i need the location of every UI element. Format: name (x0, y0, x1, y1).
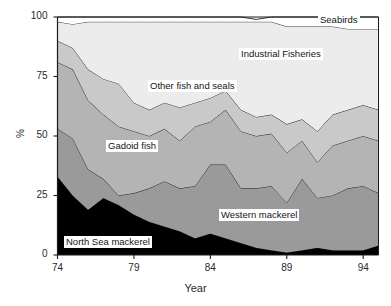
stacked-area-chart-figure: % Year 0255075100 7479848994 SeabirdsInd… (0, 0, 391, 306)
y-tick-label-50: 50 (18, 129, 48, 140)
x-tick-label-84: 84 (195, 262, 225, 273)
area-series-group (58, 17, 379, 255)
y-tick-label-100: 100 (18, 10, 48, 21)
x-tick-label-79: 79 (119, 262, 149, 273)
x-tick-label-94: 94 (348, 262, 378, 273)
chart-canvas (0, 0, 391, 306)
x-tick-label-89: 89 (272, 262, 302, 273)
y-tick-label-0: 0 (18, 248, 48, 259)
y-tick-label-25: 25 (18, 189, 48, 200)
series-label-north-sea-mackerel: North Sea mackerel (64, 236, 152, 248)
series-label-gadoid-fish: Gadoid fish (106, 140, 158, 152)
series-label-western-mackerel: Western mackerel (219, 209, 299, 221)
series-label-seabirds: Seabirds (318, 14, 360, 26)
x-axis-title: Year (0, 282, 391, 294)
series-label-industrial-fisheries: Industrial Fisheries (239, 48, 323, 60)
series-label-other-fish-and-seals: Other fish and seals (148, 80, 237, 92)
x-tick-label-74: 74 (43, 262, 73, 273)
y-tick-label-75: 75 (18, 70, 48, 81)
